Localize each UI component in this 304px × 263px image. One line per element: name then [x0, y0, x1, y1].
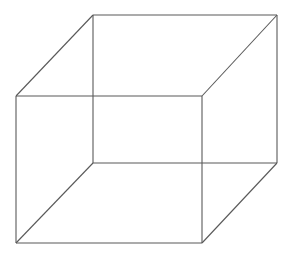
connector-top-right: [202, 15, 277, 96]
cube-wireframe-figure: [0, 0, 304, 263]
drawing-canvas: [0, 0, 304, 263]
connector-top-left: [16, 15, 93, 96]
connector-bottom-right: [202, 163, 277, 243]
connector-bottom-left: [16, 163, 93, 243]
cube-edge-group: [16, 15, 277, 243]
